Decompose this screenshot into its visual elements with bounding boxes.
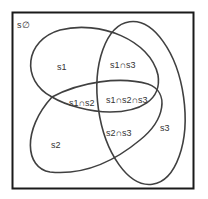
venn-diagram	[0, 0, 208, 199]
region-label-s1: s1	[57, 62, 67, 72]
universe-label: s∅	[17, 20, 30, 30]
region-label-s3: s3	[160, 123, 170, 133]
region-label-s1-s2-s3: s1∩s2∩s3	[106, 95, 147, 105]
region-label-s1-s3: s1∩s3	[110, 60, 135, 70]
universe-border	[13, 13, 194, 189]
region-label-s2: s2	[51, 140, 61, 150]
region-label-s1-s2: s1∩s2	[69, 98, 94, 108]
region-label-s2-s3: s2∩s3	[106, 128, 131, 138]
